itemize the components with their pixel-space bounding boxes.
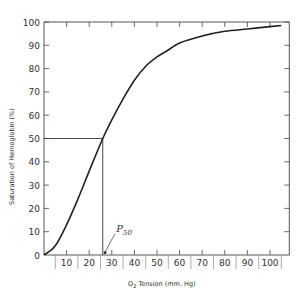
y-tick-label: 70 bbox=[29, 87, 41, 97]
y-axis-label: Saturation of Hemoglobin (%) bbox=[8, 108, 16, 205]
x-tick-label: 70 bbox=[196, 258, 208, 268]
y-tick-label: 60 bbox=[29, 111, 41, 121]
y-tick-label: 30 bbox=[29, 181, 41, 191]
y-tick-label: 10 bbox=[29, 227, 41, 237]
x-tick-label: 100 bbox=[261, 258, 278, 268]
x-tick-label: 60 bbox=[174, 258, 186, 268]
x-axis-ticks: 102030405060708090100 bbox=[55, 22, 281, 269]
x-tick-label: 10 bbox=[61, 258, 73, 268]
y-tick-label: 80 bbox=[29, 64, 41, 74]
x-tick-label: 20 bbox=[83, 258, 95, 268]
oxygen-dissociation-chart: 0102030405060708090100 10203040506070809… bbox=[0, 0, 305, 295]
y-tick-label: 40 bbox=[29, 157, 41, 167]
x-axis-label: O2 Tension (mm. Hg) bbox=[128, 280, 196, 289]
p50-arrow bbox=[105, 234, 115, 253]
x-tick-label: 50 bbox=[151, 258, 163, 268]
arrow-head-icon bbox=[104, 251, 107, 254]
x-tick-label: 80 bbox=[219, 258, 231, 268]
y-tick-label: 20 bbox=[29, 204, 41, 214]
svg-text:P50: P50 bbox=[115, 223, 132, 237]
x-tick-label: 30 bbox=[106, 258, 118, 268]
x-tick-label: 40 bbox=[129, 258, 141, 268]
y-tick-label: 100 bbox=[23, 18, 40, 28]
x-tick-label: 90 bbox=[242, 258, 254, 268]
y-axis-ticks: 0102030405060708090100 bbox=[23, 18, 289, 261]
y-tick-label: 0 bbox=[34, 251, 40, 261]
dissociation-curve bbox=[44, 25, 281, 255]
p50-annotation: P50 bbox=[104, 223, 133, 254]
p50-guides bbox=[44, 139, 103, 256]
y-tick-label: 90 bbox=[29, 41, 41, 51]
y-tick-label: 50 bbox=[29, 134, 41, 144]
